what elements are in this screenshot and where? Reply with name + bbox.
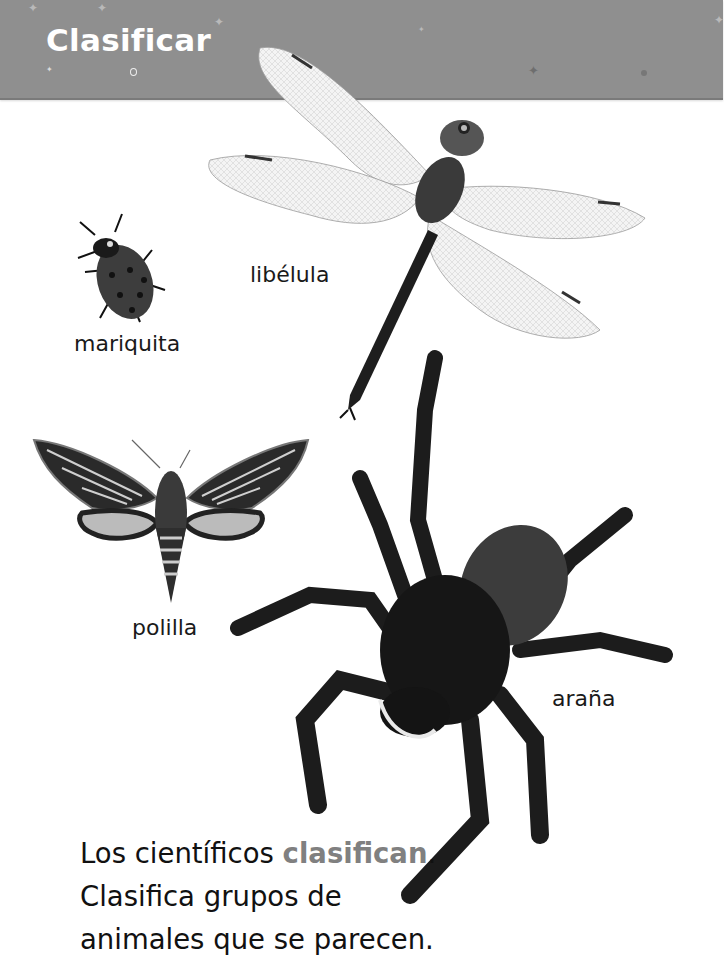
- sparkle-icon: ✦: [97, 2, 107, 14]
- instruction-text: Los científicos clasifican. Clasifica gr…: [80, 832, 436, 961]
- sparkle-icon: ✦: [418, 26, 425, 34]
- animal-label-ladybug: mariquita: [74, 331, 180, 356]
- animal-label-moth: polilla: [132, 615, 197, 640]
- sparkle-icon: ✦: [714, 14, 724, 26]
- animal-label-spider: araña: [552, 686, 615, 711]
- ladybug-image: [70, 210, 170, 325]
- animal-label-dragonfly: libélula: [250, 262, 329, 287]
- text-line-1: Los científicos clasifican.: [80, 832, 436, 875]
- text-line-3: animales que se parecen.: [80, 918, 436, 961]
- sparkle-icon: ✦: [214, 16, 224, 28]
- sparkle-icon: ✦: [28, 2, 38, 14]
- sparkle-icon: ✦: [46, 66, 53, 74]
- spider-image: [230, 350, 680, 910]
- text-line-2: Clasifica grupos de: [80, 875, 436, 918]
- dot-icon: [130, 68, 137, 76]
- vocabulary-word: clasifican: [283, 837, 428, 869]
- page-title: Clasificar: [46, 22, 211, 58]
